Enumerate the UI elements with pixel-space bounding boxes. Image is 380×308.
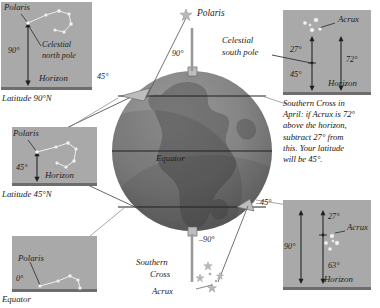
angle-45-label: 45° xyxy=(290,70,301,79)
angle-63-label: 63° xyxy=(328,261,339,270)
globe-angle-90-label: 90° xyxy=(172,49,183,58)
panel-lat-45-north: Polaris 45° Horizon xyxy=(12,127,97,186)
caption-southern-cross-april: Southern Cross in April: if Acrux is 72°… xyxy=(283,98,379,165)
panel-equator-art xyxy=(12,236,97,292)
big-dipper-glyph xyxy=(26,9,72,33)
celestial-north-pole-label-line1: Celestial xyxy=(42,40,71,49)
panel-southern-cross-april: Acrux 27° 45° 72° Horizon xyxy=(283,10,371,95)
panel-southern-cross-lower: Acrux 27° 63° 90° Horizon xyxy=(283,200,371,290)
globe-southern-cross-label-line1: Southern xyxy=(136,258,168,268)
angle-90-label: 90° xyxy=(284,242,295,251)
horizon-label: Horizon xyxy=(39,74,68,84)
southern-cross-glyph xyxy=(324,234,339,251)
celestial-north-pole-label-line2: north pole xyxy=(42,51,76,60)
big-dipper-glyph xyxy=(38,274,81,289)
horizon-label: Horizon xyxy=(45,171,74,181)
polaris-label: Polaris xyxy=(13,129,39,139)
caption-latitude-90n: Latitude 90°N xyxy=(2,94,52,104)
astronomy-latitude-diagram: Polaris 90° Celestial north pole Horizon… xyxy=(0,0,380,308)
caption-line-5: this. Your latitude xyxy=(283,143,379,154)
globe-angle-minus-45-label: –45° xyxy=(256,198,272,207)
acrux-label: Acrux xyxy=(347,223,368,233)
angle-27-label: 27° xyxy=(290,45,301,54)
caption-line-4: subtract 27° from xyxy=(283,132,379,143)
angle-0-label: 0° xyxy=(16,274,23,283)
panel-equator: Polaris 0° xyxy=(12,236,97,292)
angle-27-label: 27° xyxy=(328,212,339,221)
caption-line-3: above the horizon, xyxy=(283,120,379,131)
panel-north-pole: Polaris 90° Celestial north pole Horizon xyxy=(1,2,92,90)
southern-cross-glyph xyxy=(303,18,321,32)
caption-line-2: April: if Acrux is 72° xyxy=(283,109,379,120)
globe-acrux-label: Acrux xyxy=(152,287,173,297)
big-dipper-glyph xyxy=(35,141,77,168)
horizon-label: Horizon xyxy=(324,275,353,285)
polaris-label: Polaris xyxy=(18,254,44,264)
celestial-south-pole-label-line1: Celestial xyxy=(222,36,253,46)
caption-line-6: will be 45°. xyxy=(283,154,379,165)
horizon-label: Horizon xyxy=(328,79,357,89)
angle-72-label: 72° xyxy=(346,55,357,64)
polaris-label: Polaris xyxy=(4,3,30,13)
caption-equator: Equator xyxy=(2,295,31,305)
acrux-label: Acrux xyxy=(338,15,359,25)
globe-polaris-label: Polaris xyxy=(197,8,225,19)
globe-equator-label: Equator xyxy=(156,154,185,164)
globe-angle-minus-90-label: –90° xyxy=(199,235,215,244)
globe-southern-cross-label-line2: Cross xyxy=(150,270,170,280)
angle-45-label: 45° xyxy=(16,163,27,172)
caption-line-1: Southern Cross in xyxy=(283,98,379,109)
celestial-south-pole-label-line2: south pole xyxy=(222,48,258,58)
caption-latitude-45n: Latitude 45°N xyxy=(2,190,52,200)
angle-90-label: 90° xyxy=(8,46,19,55)
globe-angle-45-label: 45° xyxy=(97,72,108,81)
